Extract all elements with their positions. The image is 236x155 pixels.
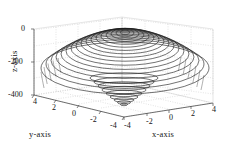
x-tick-0: 0 [169, 114, 173, 122]
y-axis-line [34, 95, 124, 117]
y-tick-4: 4 [33, 98, 37, 106]
z-tick-minus400: -400 [8, 91, 23, 99]
dome-crown-shading [109, 29, 153, 45]
x-tick-4: 4 [212, 106, 216, 114]
x-tick-2: 2 [191, 110, 195, 118]
y-tick-0: 0 [72, 110, 76, 118]
figure-3d-surface-plot: z-axis 0 -200 -400 y-axis 4 2 0 -2 -4 x-… [0, 0, 236, 155]
x-tick-minus2: -2 [146, 118, 153, 126]
y-tick-minus4: -4 [110, 122, 117, 130]
x-tick-minus4: -4 [124, 122, 131, 130]
z-tick-0: 0 [21, 25, 25, 33]
y-axis-ticks [32, 95, 124, 120]
surface-contour-rings-lower-funnel [90, 73, 158, 106]
y-tick-2: 2 [52, 104, 56, 112]
z-tick-minus200: -200 [8, 58, 23, 66]
z-axis-ticks [31, 29, 34, 95]
y-axis-title: y-axis [29, 130, 51, 139]
y-tick-minus2: -2 [90, 116, 97, 124]
x-axis-title: x-axis [152, 130, 174, 139]
